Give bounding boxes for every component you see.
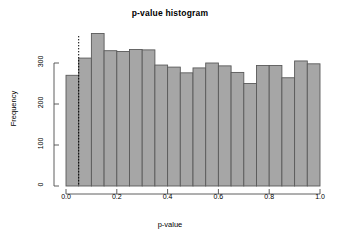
histogram-bar bbox=[206, 63, 219, 186]
histogram-bar bbox=[307, 64, 320, 186]
histogram-figure: p-value histogram Frequency p-value 0.00… bbox=[0, 0, 340, 242]
histogram-bar bbox=[193, 68, 206, 186]
bars-group bbox=[66, 33, 320, 186]
x-tick-label: 1.0 bbox=[305, 193, 335, 200]
plot-canvas bbox=[0, 0, 340, 242]
histogram-bar bbox=[218, 66, 231, 186]
histogram-bar bbox=[282, 78, 295, 186]
y-tick-label: 0 bbox=[37, 174, 44, 196]
x-axis-title: p-value bbox=[0, 220, 340, 229]
histogram-bar bbox=[155, 65, 168, 186]
y-tick-label: 200 bbox=[37, 92, 44, 114]
histogram-bar bbox=[257, 65, 270, 186]
histogram-bar bbox=[117, 52, 130, 186]
x-tick-label: 0.8 bbox=[254, 193, 284, 200]
histogram-bar bbox=[244, 84, 257, 187]
histogram-bar bbox=[66, 75, 79, 186]
histogram-bar bbox=[231, 72, 244, 186]
histogram-bar bbox=[130, 49, 143, 186]
histogram-bar bbox=[79, 58, 92, 186]
x-tick-label: 0.4 bbox=[153, 193, 183, 200]
histogram-bar bbox=[142, 50, 155, 186]
histogram-bar bbox=[269, 65, 282, 186]
histogram-bar bbox=[295, 61, 308, 186]
y-tick-label: 100 bbox=[37, 133, 44, 155]
x-tick-label: 0.2 bbox=[102, 193, 132, 200]
histogram-bar bbox=[168, 67, 181, 186]
histogram-bar bbox=[104, 51, 117, 186]
histogram-bar bbox=[180, 73, 193, 186]
y-axis-title: Frequency bbox=[9, 74, 18, 144]
x-tick-label: 0.6 bbox=[203, 193, 233, 200]
y-tick-label: 300 bbox=[37, 51, 44, 73]
histogram-bar bbox=[91, 33, 104, 186]
x-tick-label: 0.0 bbox=[51, 193, 81, 200]
